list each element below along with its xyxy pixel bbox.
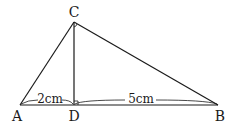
- vertex-label-D: D: [68, 108, 79, 124]
- vertex-label-A: A: [11, 108, 23, 124]
- measurement-AD: 2cm: [37, 92, 63, 106]
- vertex-label-B: B: [215, 108, 225, 124]
- measurement-DB: 5cm: [128, 92, 154, 106]
- triangle-diagram: 2cm 5cm C A D B: [0, 0, 240, 131]
- vertex-label-C: C: [69, 4, 80, 20]
